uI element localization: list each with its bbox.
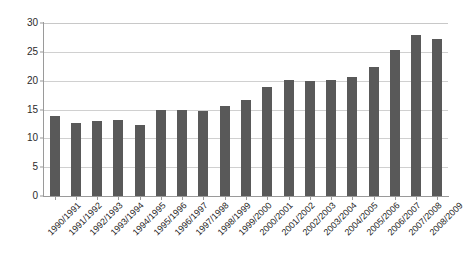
x-tick-mark (118, 196, 119, 200)
bar[interactable] (347, 77, 357, 196)
x-label-slot: 2001/2002 (278, 201, 299, 260)
x-tick-mark (395, 196, 396, 200)
y-axis-tick-label: 0 (32, 191, 38, 201)
bar-slot (44, 23, 65, 196)
bar-slot (235, 23, 256, 196)
x-tick-mark (267, 196, 268, 200)
x-tick-mark (55, 196, 56, 200)
x-label-slot: 2000/2001 (257, 201, 278, 260)
bar-slot (257, 23, 278, 196)
x-tick-mark (310, 196, 311, 200)
bar[interactable] (156, 110, 166, 197)
x-tick-mark (437, 196, 438, 200)
x-tick-mark (289, 196, 290, 200)
y-axis-tick-label: 30 (27, 18, 38, 28)
x-label-slot: 2005/2006 (363, 201, 384, 260)
x-label-slot: 2002/2003 (299, 201, 320, 260)
bar[interactable] (177, 110, 187, 196)
bar-slot (87, 23, 108, 196)
bar-slot (320, 23, 341, 196)
x-tick-mark (140, 196, 141, 200)
x-tick-mark (352, 196, 353, 200)
y-axis-tick-label: 15 (27, 105, 38, 115)
y-axis-tick-label: 5 (32, 162, 38, 172)
x-label-slot: 1994/1995 (129, 201, 150, 260)
x-label-slot: 1990/1991 (44, 201, 65, 260)
x-tick-mark (76, 196, 77, 200)
bar[interactable] (198, 111, 208, 196)
x-label-slot: 1998/1999 (214, 201, 235, 260)
x-tick-mark (97, 196, 98, 200)
bar-slot (65, 23, 86, 196)
bar-slot (214, 23, 235, 196)
x-tick-mark (182, 196, 183, 200)
bar[interactable] (432, 39, 442, 196)
x-label-slot: 2004/2005 (342, 201, 363, 260)
x-label-slot: 1999/2000 (235, 201, 256, 260)
x-tick-mark (416, 196, 417, 200)
bar[interactable] (411, 35, 421, 196)
bar-slot (108, 23, 129, 196)
bar[interactable] (262, 87, 272, 196)
x-label-slot: 1991/1992 (65, 201, 86, 260)
bar[interactable] (92, 121, 102, 196)
bar[interactable] (305, 81, 315, 196)
x-tick-mark (331, 196, 332, 200)
x-label-slot: 1993/1994 (108, 201, 129, 260)
y-axis-tick-label: 10 (27, 133, 38, 143)
bars-group (44, 23, 448, 196)
bar[interactable] (390, 50, 400, 196)
bar-slot (278, 23, 299, 196)
bar[interactable] (284, 80, 294, 196)
bar-slot (150, 23, 171, 196)
bar[interactable] (50, 116, 60, 196)
bar[interactable] (326, 80, 336, 196)
x-tick-mark (161, 196, 162, 200)
x-label-slot: 1997/1998 (193, 201, 214, 260)
x-tick-mark (225, 196, 226, 200)
y-axis-tick-label: 25 (27, 47, 38, 57)
x-axis-tick-label: 2008/2009 (429, 201, 465, 237)
x-tick-mark (203, 196, 204, 200)
bar[interactable] (71, 123, 81, 196)
bar[interactable] (241, 100, 251, 196)
x-label-slot: 2003/2004 (320, 201, 341, 260)
bar-slot (299, 23, 320, 196)
x-label-slot: 2006/2007 (384, 201, 405, 260)
bar-slot (342, 23, 363, 196)
bar-slot (384, 23, 405, 196)
bar-slot (406, 23, 427, 196)
x-label-slot: 1995/1996 (150, 201, 171, 260)
x-tick-mark (246, 196, 247, 200)
bar-slot (427, 23, 448, 196)
bar[interactable] (220, 106, 230, 196)
x-label-slot: 1992/1993 (87, 201, 108, 260)
bar-slot (172, 23, 193, 196)
bar-slot (363, 23, 384, 196)
x-label-slot: 1996/1997 (172, 201, 193, 260)
bar[interactable] (135, 125, 145, 197)
bar[interactable] (113, 120, 123, 196)
x-label-slot: 2007/2008 (406, 201, 427, 260)
x-axis-labels-group: 1990/19911991/19921992/19931993/19941994… (44, 201, 448, 260)
bar[interactable] (369, 67, 379, 196)
bar-slot (193, 23, 214, 196)
bar-slot (129, 23, 150, 196)
x-tick-mark (374, 196, 375, 200)
x-label-slot: 2008/2009 (427, 201, 448, 260)
y-axis-tick-label: 20 (27, 76, 38, 86)
